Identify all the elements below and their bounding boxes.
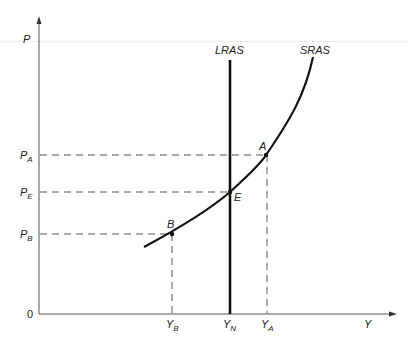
point-e-label: E xyxy=(234,191,242,203)
point-a-label: A xyxy=(258,140,266,152)
point-b-label: B xyxy=(167,218,174,230)
y-axis-label: P xyxy=(23,33,31,45)
point-b-dot xyxy=(170,232,174,236)
ya-label: YA xyxy=(261,318,274,333)
sras-label: SRAS xyxy=(300,44,331,56)
pe-label: PE xyxy=(20,186,33,201)
x-axis-label: Y xyxy=(364,318,372,330)
yb-label: YB xyxy=(166,318,179,333)
pb-label: PB xyxy=(20,228,33,243)
point-a-dot xyxy=(264,153,268,157)
pa-label: PA xyxy=(20,149,33,164)
yn-label: YN xyxy=(223,318,236,333)
lras-label: LRAS xyxy=(215,44,244,56)
point-e-dot xyxy=(228,190,232,194)
as-diagram: P Y 0 LRAS SRAS A E B PA PE PB YB YN YA xyxy=(0,0,408,344)
origin-label: 0 xyxy=(27,308,33,320)
dashed-guides xyxy=(40,155,267,313)
